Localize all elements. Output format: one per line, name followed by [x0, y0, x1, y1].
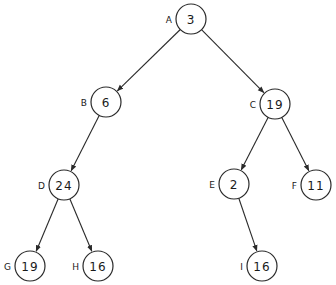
node-label: D — [38, 181, 45, 191]
node-value: 19 — [266, 98, 283, 112]
edge-c-f — [282, 117, 309, 170]
edge-b-d — [71, 115, 99, 170]
edge-a-b — [117, 30, 180, 91]
node-label: E — [209, 180, 215, 190]
node-value: 24 — [55, 179, 72, 193]
node-label: I — [240, 262, 243, 272]
edge-c-e — [241, 117, 268, 170]
node-label: G — [4, 262, 11, 272]
tree-diagram: 3A6B19C24D2E11F19G16H16I — [0, 0, 336, 285]
node-value: 19 — [21, 260, 38, 274]
edge-e-i — [239, 198, 257, 251]
node-label: H — [72, 262, 79, 272]
edge-a-c — [202, 30, 264, 93]
nodes-layer: 3A6B19C24D2E11F19G16H16I — [4, 4, 331, 281]
node-label: F — [292, 181, 297, 191]
edge-d-g — [36, 199, 58, 251]
node-label: C — [250, 100, 256, 110]
node-value: 6 — [102, 96, 111, 110]
node-value: 16 — [253, 260, 270, 274]
node-e: 2E — [209, 169, 249, 199]
node-f: 11F — [292, 170, 331, 200]
node-a: 3A — [166, 4, 206, 34]
node-g: 19G — [4, 251, 45, 281]
edge-d-h — [70, 199, 92, 251]
node-d: 24D — [38, 170, 79, 200]
node-c: 19C — [250, 89, 290, 119]
node-value: 16 — [89, 260, 106, 274]
node-label: A — [166, 15, 173, 25]
node-h: 16H — [72, 251, 113, 281]
node-value: 11 — [307, 179, 324, 193]
node-value: 2 — [230, 178, 239, 192]
node-b: 6B — [81, 87, 121, 117]
edges-layer — [36, 30, 309, 252]
node-value: 3 — [187, 13, 196, 27]
node-i: 16I — [240, 251, 277, 281]
node-label: B — [81, 98, 87, 108]
